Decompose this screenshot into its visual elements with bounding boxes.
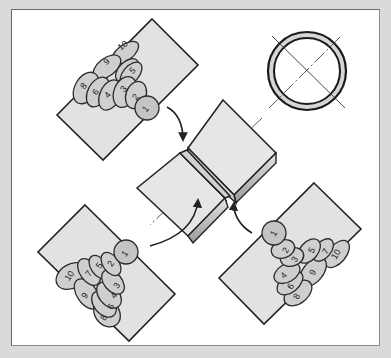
arrow-bottom-right-to-joint [234, 203, 252, 233]
view-top-left: 10 9 5 8 6 4 3 2 1 [57, 19, 198, 160]
arrow-top-left-to-joint [167, 107, 183, 140]
view-bottom-right: 10 9 7 5 8 6 4 3 2 1 [219, 183, 361, 324]
joint-assembly [137, 100, 276, 243]
view-bottom-left: 10 9 7 5 8 6 4 3 2 1 [38, 205, 175, 341]
welding-diagram: 10 9 5 8 6 4 3 2 1 10 9 7 5 8 6 4 3 2 [0, 0, 391, 358]
pipe-section-symbol [268, 32, 346, 110]
